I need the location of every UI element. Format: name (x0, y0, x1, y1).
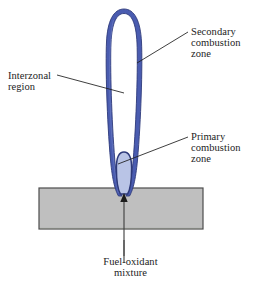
label-interzonal-region: Interzonal region (8, 70, 51, 92)
label-fuel-oxidant-mixture: Fuel-oxidant mixture (0, 256, 261, 278)
leader-line-secondary (137, 32, 188, 63)
leader-line-primary (118, 137, 188, 164)
label-secondary-line-1: Secondary (191, 26, 241, 37)
label-secondary-line-2: combustion (191, 37, 241, 48)
label-primary-line-2: combustion (191, 142, 241, 153)
flame-structure-figure: Secondary combustion zone Primary combus… (0, 0, 261, 292)
label-secondary-combustion-zone: Secondary combustion zone (191, 26, 241, 60)
label-primary-line-1: Primary (191, 131, 241, 142)
leader-line-interzonal (57, 75, 124, 93)
label-interzonal-line-2: region (8, 81, 51, 92)
primary-combustion-zone-shape (116, 152, 131, 194)
label-secondary-line-3: zone (191, 48, 241, 59)
label-interzonal-line-1: Interzonal (8, 70, 51, 81)
label-primary-line-3: zone (191, 153, 241, 164)
label-fuel-line-1: Fuel-oxidant (0, 256, 261, 267)
label-fuel-line-2: mixture (0, 267, 261, 278)
label-primary-combustion-zone: Primary combustion zone (191, 131, 241, 165)
